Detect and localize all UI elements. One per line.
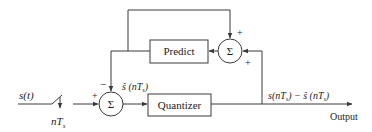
output-label: Output [330, 111, 358, 122]
sum1-minus-sign: − [100, 78, 106, 90]
input-label: s(t) [19, 89, 34, 102]
prediction-label: ŝ (nTs) [122, 81, 149, 93]
sum2-right-plus-sign: + [245, 57, 251, 68]
sum1-plus-sign: + [92, 90, 98, 101]
svg-text:Quantizer: Quantizer [158, 99, 202, 111]
sampler-label: nTs [51, 115, 66, 130]
input-summer: Σ [99, 92, 123, 116]
dpcm-block-diagram: s(t) nTs + Σ − Quantizer s(nTs) − ŝ (nTs… [0, 0, 372, 132]
svg-text:Predict: Predict [163, 45, 194, 57]
feedback-summer: Σ [218, 39, 242, 63]
sampler-switch-icon [52, 95, 62, 108]
error-signal-label: s(nTs) − ŝ (nTs) [268, 90, 330, 102]
quantizer-block: Quantizer [148, 94, 211, 116]
svg-text:Σ: Σ [108, 98, 114, 110]
sum2-top-plus-sign: + [237, 27, 243, 38]
predict-block: Predict [150, 40, 208, 63]
svg-text:Σ: Σ [227, 45, 233, 57]
